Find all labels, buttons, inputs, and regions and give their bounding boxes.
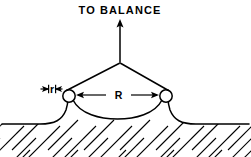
wire-radius-label: r <box>50 83 54 95</box>
ring-radius-label: R <box>115 89 123 101</box>
liquid-hatching <box>0 120 251 157</box>
balance-direction-title: TO BALANCE <box>79 4 162 16</box>
liquid-surface-left <box>2 97 68 125</box>
ring-arm-left <box>67 64 120 91</box>
wire-radius-dimension: r <box>41 83 63 95</box>
liquid-surface-right <box>168 97 249 125</box>
diagram-canvas: R r TO BALANCE <box>0 0 251 157</box>
meniscus-curve <box>73 100 162 119</box>
ring-arm-right <box>121 64 169 91</box>
left-wire-cross-section <box>63 90 75 102</box>
ring-radius-dimension: R <box>76 89 159 101</box>
right-wire-cross-section <box>160 90 172 102</box>
ring-tensiometer-diagram: R r TO BALANCE <box>0 0 251 157</box>
